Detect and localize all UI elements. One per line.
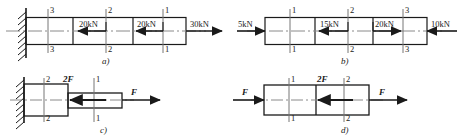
section-label-1-top-c: 1 [96,74,100,84]
panel-c: 2 2 1 1 2F F c) [0,69,231,138]
section-label-2-bottom-c: 2 [46,113,50,123]
section-label-2-bottom-b: 2 [350,44,354,54]
load-label-f-right-d: F [378,87,385,97]
section-label-3-top-a: 3 [50,5,54,15]
panel-caption-b: b) [341,56,349,66]
load-label-f-left-d: F [241,87,248,97]
panel-caption-a: a) [102,56,110,66]
section-label-3-top-b: 3 [405,5,409,15]
section-label-2-bottom-d: 2 [346,113,350,123]
fixed-support-wall-c [16,77,24,129]
load-label-2f-c: 2F [62,74,74,84]
panel-caption-c: c) [100,125,107,135]
panel-d: 1 1 2 2 F 2F F d) [231,69,462,138]
section-label-2-top-c: 2 [46,74,50,84]
fixed-support-wall-a [18,8,26,61]
figure-sheet: 3 3 2 2 1 1 20kN 20kN 30kN a) [0,0,462,138]
section-label-2-bottom-a: 2 [108,44,112,54]
section-label-3-bottom-b: 3 [405,44,409,54]
load-label-15kn-b: 15kN [320,19,339,29]
section-label-1-bottom-a: 1 [165,44,169,54]
panel-a: 3 3 2 2 1 1 20kN 20kN 30kN a) [0,0,231,69]
load-label-2f-d: 2F [316,74,328,84]
section-label-1-top-a: 1 [165,5,169,15]
section-label-1-bottom-b: 1 [292,44,296,54]
panel-caption-d: d) [341,125,349,135]
panel-b: 1 1 2 2 3 3 5kN 15kN 20kN 10kN b) [231,0,462,69]
section-label-1-bottom-c: 1 [96,113,100,123]
load-label-10kn-b: 10kN [431,19,450,29]
section-label-2-top-d: 2 [346,74,350,84]
section-label-1-bottom-d: 1 [291,113,295,123]
section-label-3-bottom-a: 3 [50,44,54,54]
section-label-1-top-d: 1 [291,74,295,84]
load-label-f-c: F [130,87,137,97]
load-label-5kn-b: 5kN [238,19,253,29]
load-label-20kn-second-a: 20kN [137,19,156,29]
section-label-1-top-b: 1 [292,5,296,15]
section-label-2-top-b: 2 [350,5,354,15]
section-label-2-top-a: 2 [108,5,112,15]
load-label-30kn-a: 30kN [190,19,209,29]
load-label-20kn-first-a: 20kN [79,19,98,29]
load-label-20kn-b: 20kN [375,19,394,29]
